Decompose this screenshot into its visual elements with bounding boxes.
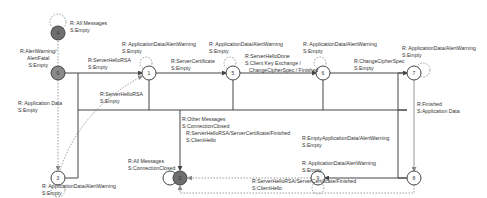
label-line: AlertFatal: [20, 55, 56, 62]
label-line: R:Finished: [417, 101, 460, 108]
label-line: S:Empty: [302, 167, 376, 174]
label-line: S:Empty: [303, 48, 377, 55]
label-line: S:Empty: [171, 65, 215, 72]
svg-text:1: 1: [148, 70, 151, 76]
label-s6-loop: R: ApplicationData/AlertWarningS:Empty: [303, 41, 377, 55]
label-line: S:ConnectionClosed: [128, 165, 175, 172]
label-line: R: Application Data: [18, 100, 62, 107]
label-s7-s8: R:FinishedS:Application Data: [417, 101, 460, 115]
label-line: R: ApplicationData/AlertWarning: [303, 41, 377, 48]
label-line: R: ApplicationData/AlertWarning: [209, 41, 283, 48]
label-line: S:Empty: [70, 27, 107, 34]
label-line: S:Empty: [122, 48, 196, 55]
svg-text:4: 4: [57, 30, 60, 36]
label-s0-alert: R:AlertWarning/AlertFatalS:Empty: [20, 48, 56, 69]
label-line: R:AlertWarning/: [20, 48, 56, 55]
label-line: R:ServerHelloRSA/ServerCertificate/Finis…: [186, 130, 290, 137]
svg-text:8: 8: [413, 175, 416, 181]
label-line: S:Application Data: [417, 108, 460, 115]
label-line: R:ServerHelloRSA/ServerCertificate/Finis…: [252, 178, 356, 185]
svg-text:2: 2: [179, 175, 182, 181]
label-line: S:ClientHello: [252, 185, 356, 192]
label-line: S:ConnectionClosed: [182, 123, 229, 130]
label-line: R:ChangeCipherSpec: [354, 58, 404, 65]
label-s2-loop: R:All MessagesS:ConnectionClosed: [128, 158, 175, 172]
label-line: S:Empty: [302, 142, 389, 149]
label-line: S:Empty: [402, 52, 476, 59]
label-s1-loop: R: ApplicationData/AlertWarningS:Empty: [122, 41, 196, 55]
svg-text:7: 7: [413, 70, 416, 76]
label-line: S:Empty: [100, 98, 143, 105]
label-line: R: All Messages: [70, 20, 107, 27]
label-line: S:Empty: [18, 107, 62, 114]
label-line: R: ApplicationData/AlertWarning: [122, 41, 196, 48]
label-s5-s6: R:ServerHelloDoneS:Client Key Exchange /…: [245, 53, 318, 74]
label-s7-loop: R: ApplicationData/AlertWarningS:Empty: [402, 45, 476, 59]
label-line: R:ServerCertificate: [171, 58, 215, 65]
bus-left: [65, 73, 78, 178]
state-4[interactable]: 4: [51, 26, 65, 40]
label-line: S:ClientHello: [186, 137, 290, 144]
label-s6-s7: R:ChangeCipherSpecS:Empty: [354, 58, 404, 72]
label-line: R: ApplicationData/AlertWarning: [42, 183, 116, 190]
state-5[interactable]: 5: [226, 66, 240, 80]
label-s1-s5: R:ServerCertificateS:Empty: [171, 58, 215, 72]
bus-drop-8: [398, 110, 407, 178]
label-s3-loop: R: ApplicationData/AlertWarningS:Empty: [42, 183, 116, 197]
label-line: R:All Messages: [128, 158, 175, 165]
label-s8-s9: R:EmptyApplicationData/AlertWarningS:Emp…: [302, 135, 389, 149]
label-line: R:EmptyApplicationData/AlertWarning: [302, 135, 389, 142]
svg-text:6: 6: [322, 70, 325, 76]
label-line: R: ApplicationData/AlertWarning: [402, 45, 476, 52]
label-line: S:Empty: [88, 64, 131, 71]
bus-drop-7: [398, 73, 407, 110]
state-8[interactable]: 8: [407, 171, 421, 185]
label-line: S:Client Key Exchange /: [245, 60, 318, 67]
label-other-s2: R:Other MessagesS:ConnectionClosed: [182, 116, 229, 130]
label-line: S:Empty: [354, 65, 404, 72]
label-line: S:Empty: [42, 190, 116, 197]
state-2[interactable]: 2: [173, 171, 187, 185]
label-s9-loop: R: ApplicationData/AlertWarningS:Empty: [302, 160, 376, 174]
label-s4-loop: R: All MessagesS:Empty: [70, 20, 107, 34]
label-line: R:Other Messages: [182, 116, 229, 123]
label-line: R:ServerHelloRSA: [100, 91, 143, 98]
label-s3-s1: R:ServerHelloRSAS:Empty: [100, 91, 143, 105]
label-line: S:Empty: [20, 62, 56, 69]
label-s8-s2: R:ServerHelloRSA/ServerCertificate/Finis…: [252, 178, 356, 192]
label-s0-s1: R:ServerHelloRSAS:Empty: [88, 57, 131, 71]
state-1[interactable]: 1: [142, 66, 156, 80]
label-line: ChangeCipherSpec / Finished: [245, 67, 318, 74]
label-line: R: ApplicationData/AlertWarning: [302, 160, 376, 167]
state-7[interactable]: 7: [407, 66, 421, 80]
svg-text:3: 3: [57, 175, 60, 181]
label-s9-s2: R:ServerHelloRSA/ServerCertificate/Finis…: [186, 130, 290, 144]
label-s3-s0: R: Application DataS:Empty: [18, 100, 62, 114]
svg-text:0: 0: [57, 70, 60, 76]
svg-text:5: 5: [232, 70, 235, 76]
label-line: R:ServerHelloRSA: [88, 57, 131, 64]
